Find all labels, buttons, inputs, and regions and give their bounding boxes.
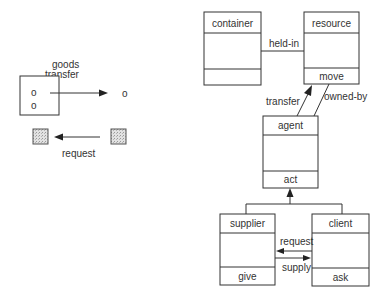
- goods-transfer-group: goods transfer o o o: [20, 59, 128, 115]
- arrowhead-right-icon: [303, 255, 311, 261]
- transfer-label: transfer: [266, 96, 301, 107]
- supplier-class-name: supplier: [230, 218, 266, 229]
- owned-by-label: owned-by: [324, 91, 367, 102]
- resource-class-name: resource: [312, 18, 351, 29]
- arrowhead-left-icon: [276, 248, 284, 254]
- arrowhead-up-icon: [304, 85, 312, 96]
- class-client: client ask: [312, 214, 369, 286]
- held-in-label: held-in: [269, 38, 299, 49]
- container-class-name: container: [212, 18, 254, 29]
- request-relation-label: request: [280, 236, 314, 247]
- request-label: request: [62, 148, 96, 159]
- generalization-connector: [246, 188, 342, 214]
- diagram-canvas: goods transfer o o o request container r…: [0, 0, 390, 296]
- arrowhead-left-icon: [54, 134, 63, 141]
- arrowhead-up-icon: [287, 188, 294, 197]
- agent-operation: act: [284, 174, 298, 185]
- client-class-name: client: [329, 218, 353, 229]
- provider-square-icon: [111, 129, 126, 144]
- goods-item-1: o: [31, 87, 37, 98]
- goods-target-item: o: [122, 88, 128, 99]
- goods-item-2: o: [31, 100, 37, 111]
- resource-operation: move: [319, 71, 344, 82]
- requester-square-icon: [33, 129, 48, 144]
- supply-relation-label: supply: [282, 262, 311, 273]
- goods-container-box: [20, 76, 59, 115]
- class-supplier: supplier give: [220, 214, 275, 285]
- class-resource: resource move: [304, 12, 359, 84]
- request-group: request: [33, 129, 126, 159]
- arrowhead-right-icon: [99, 90, 108, 97]
- client-operation: ask: [333, 272, 350, 283]
- class-container: container: [204, 12, 261, 85]
- supplier-operation: give: [238, 271, 257, 282]
- class-agent: agent act: [263, 116, 318, 188]
- agent-class-name: agent: [278, 120, 303, 131]
